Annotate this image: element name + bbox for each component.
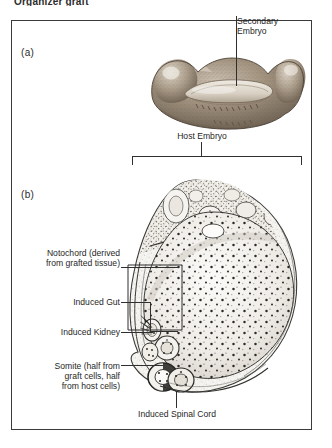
figure-root: Organizer graft (a) (b) [0, 0, 332, 448]
leader-somite [121, 365, 163, 366]
leader-induced-kidney [121, 332, 153, 333]
leader-notochord [121, 267, 179, 268]
notochord-region-box [128, 265, 182, 330]
leader-induced-spinal-cord [176, 391, 177, 408]
leader-induced-gut-h [121, 302, 150, 303]
label-notochord: Notochord (derived from grafted tissue) [28, 248, 120, 268]
label-somite: Somite (half from graft cells, half from… [26, 361, 120, 392]
leader-induced-gut-h2 [150, 331, 178, 332]
label-induced-spinal-cord: Induced Spinal Cord [106, 409, 248, 419]
leader-induced-gut-v [150, 302, 151, 331]
label-induced-kidney: Induced Kidney [20, 327, 120, 337]
label-induced-gut: Induced Gut [36, 297, 120, 307]
